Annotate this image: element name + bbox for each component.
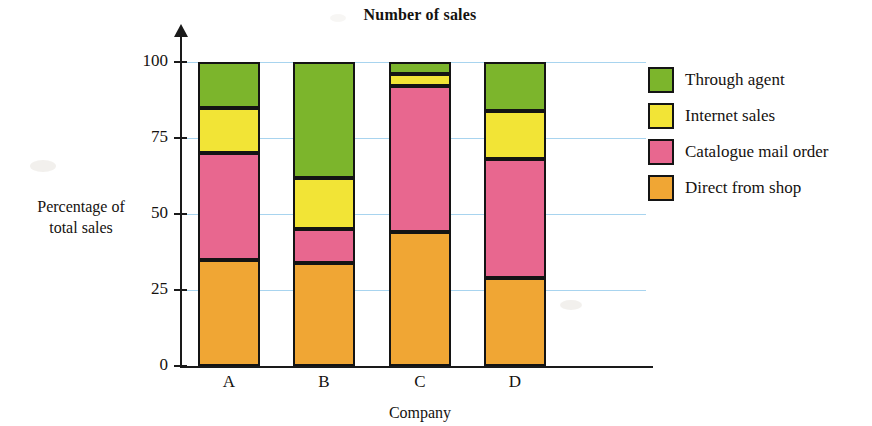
y-axis-tick-mark <box>174 137 187 139</box>
stacked-bar-a <box>198 62 260 366</box>
bar-segment <box>484 278 546 366</box>
x-axis-title: Company <box>330 404 510 422</box>
x-axis-tick-label: A <box>198 372 260 392</box>
chart-figure: Number of sales 1007550250 ABCD Percenta… <box>0 0 872 426</box>
y-axis-tick-mark <box>174 289 187 291</box>
legend-item-label: Internet sales <box>685 106 775 126</box>
legend-item-label: Direct from shop <box>685 178 801 198</box>
x-axis-tick-label: B <box>293 372 355 392</box>
legend-item: Internet sales <box>648 98 872 134</box>
y-axis-arrow <box>174 24 188 37</box>
bar-segment <box>293 263 355 366</box>
legend-item-label: Catalogue mail order <box>685 142 829 162</box>
y-axis-tick-mark <box>174 365 187 367</box>
y-axis-tick-mark <box>174 61 187 63</box>
bar-segment <box>484 62 546 111</box>
y-axis-title: Percentage of total sales <box>6 196 156 238</box>
bar-segment <box>389 74 451 86</box>
bar-segment <box>198 62 260 108</box>
bar-segment <box>198 153 260 259</box>
bar-segment <box>198 108 260 154</box>
legend-item: Through agent <box>648 62 872 98</box>
y-axis-tick-mark <box>174 213 187 215</box>
legend-swatch-pink <box>648 139 674 165</box>
legend-swatch-green <box>648 67 674 93</box>
scan-artifact <box>30 160 56 172</box>
bar-segment <box>293 229 355 262</box>
x-axis-tick-label: D <box>484 372 546 392</box>
bar-segment <box>484 111 546 160</box>
bar-segment <box>389 86 451 232</box>
chart-title: Number of sales <box>290 6 550 24</box>
legend-swatch-orange <box>648 175 674 201</box>
bar-segment <box>198 260 260 366</box>
x-axis-tick-label: C <box>389 372 451 392</box>
bar-segment <box>293 178 355 230</box>
legend-item: Direct from shop <box>648 170 872 206</box>
y-axis-tick-label: 0 <box>122 359 168 371</box>
y-axis-title-line-2: total sales <box>6 217 156 238</box>
legend-swatch-yellow <box>648 103 674 129</box>
stacked-bar-b <box>293 62 355 366</box>
y-axis-title-line-1: Percentage of <box>6 196 156 217</box>
x-axis-line <box>180 366 653 368</box>
stacked-bar-d <box>484 62 546 366</box>
legend-item-label: Through agent <box>685 70 785 90</box>
bar-segment <box>389 62 451 74</box>
bar-segment <box>484 159 546 278</box>
legend-item: Catalogue mail order <box>648 134 872 170</box>
chart-legend: Through agentInternet salesCatalogue mai… <box>648 62 872 206</box>
bar-segment <box>389 232 451 366</box>
scan-artifact <box>560 300 582 310</box>
stacked-bar-c <box>389 62 451 366</box>
bar-segment <box>293 62 355 178</box>
y-axis-tick-label: 100 <box>122 55 168 67</box>
y-axis-line <box>180 32 182 368</box>
y-axis-tick-label: 75 <box>122 131 168 143</box>
y-axis-tick-label: 25 <box>122 283 168 295</box>
